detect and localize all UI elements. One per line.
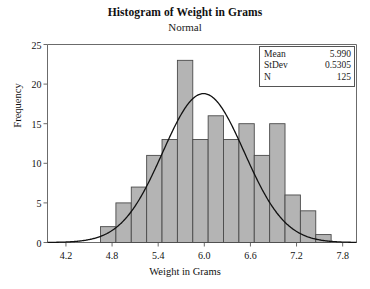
histogram-bar — [147, 155, 162, 242]
statistics-legend: Mean 5.990 StDev 0.5305 N 125 — [259, 46, 355, 87]
plot-area — [0, 0, 370, 289]
legend-value-mean: 5.990 — [330, 49, 351, 60]
histogram-bar — [239, 124, 254, 243]
x-tick-label: 4.2 — [60, 250, 73, 261]
x-tick-label: 6.6 — [244, 250, 257, 261]
histogram-bar — [208, 116, 223, 243]
chart-title: Histogram of Weight in Grams — [0, 6, 370, 18]
y-axis-label: Frequency — [12, 61, 23, 151]
y-tick-label: 0 — [37, 237, 42, 248]
histogram-bar — [224, 140, 239, 243]
x-tick-label: 4.8 — [106, 250, 119, 261]
histogram-bar — [270, 124, 285, 243]
histogram-bar — [300, 211, 315, 243]
histogram-chart: Histogram of Weight in Grams Normal Freq… — [0, 0, 370, 289]
x-tick-label: 6.0 — [198, 250, 211, 261]
x-axis-label: Weight in Grams — [0, 266, 370, 277]
x-tick-label: 7.8 — [336, 250, 349, 261]
legend-value-stdev: 0.5305 — [325, 60, 351, 71]
histogram-bar — [162, 140, 177, 243]
histogram-bar — [193, 140, 208, 243]
legend-key-mean: Mean — [264, 49, 290, 60]
histogram-bar — [177, 60, 192, 242]
legend-value-n: 125 — [337, 72, 351, 83]
x-tick-label: 7.2 — [290, 250, 303, 261]
histogram-bar — [131, 187, 146, 242]
legend-row: StDev 0.5305 — [264, 60, 351, 71]
x-tick-label: 5.4 — [152, 250, 165, 261]
histogram-bar — [116, 203, 131, 243]
histogram-bar — [285, 195, 300, 243]
y-tick-label: 20 — [32, 79, 42, 90]
bars — [101, 60, 332, 242]
y-tick-label: 25 — [32, 39, 42, 50]
legend-row: N 125 — [264, 72, 351, 83]
y-tick-label: 15 — [32, 118, 42, 129]
legend-key-n: N — [264, 72, 275, 83]
y-tick-label: 10 — [32, 158, 42, 169]
legend-row: Mean 5.990 — [264, 49, 351, 60]
legend-key-stdev: StDev — [264, 60, 292, 71]
chart-subtitle: Normal — [0, 21, 370, 33]
y-tick-label: 5 — [37, 197, 42, 208]
